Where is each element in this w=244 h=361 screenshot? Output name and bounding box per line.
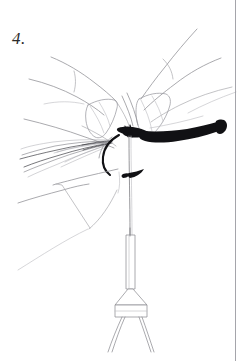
bobbin-tube [126,228,135,289]
fly-tying-illustration [0,0,244,361]
illustration-page: 4. [0,0,244,361]
tying-thread [129,136,132,235]
bobbin-holder [108,289,154,352]
hook-shank [139,116,227,143]
lower-left-thumb [18,169,120,270]
hackle-fibers [20,140,112,177]
arrow-marker [122,169,145,178]
fingertip-edge-lines [116,93,138,128]
upper-left-finger [29,57,116,115]
